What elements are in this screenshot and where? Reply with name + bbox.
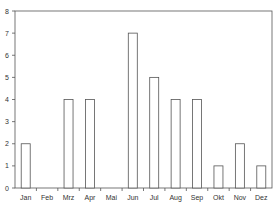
x-tick-label: Jun [127,194,138,201]
x-tick-label: Apr [85,194,97,202]
bar-sep [193,100,202,189]
y-axis: 012345678 [5,8,15,192]
bar-apr [85,100,94,189]
y-tick-label: 0 [5,185,9,192]
bar-okt [214,166,223,188]
x-axis: JanFebMrzAprMaiJunJulAugSepOktNovDez [20,188,268,202]
y-tick-label: 8 [5,8,9,15]
y-tick-label: 1 [5,162,9,169]
plot-frame [15,11,272,188]
y-tick-label: 2 [5,140,9,147]
bar-chart: 012345678 JanFebMrzAprMaiJunJulAugSepOkt… [0,0,280,208]
x-tick-label: Jul [150,194,159,201]
plot-area-border [15,11,272,188]
x-tick-label: Mai [106,194,118,201]
bar-jun [128,33,137,188]
y-tick-label: 7 [5,30,9,37]
y-tick-label: 4 [5,96,9,103]
y-tick-label: 5 [5,74,9,81]
y-tick-label: 6 [5,52,9,59]
bar-nov [235,144,244,188]
x-tick-label: Jan [20,194,31,201]
x-tick-label: Okt [213,194,224,201]
bar-mrz [64,100,73,189]
x-tick-label: Mrz [63,194,75,201]
x-tick-label: Sep [191,194,204,202]
x-tick-label: Aug [169,194,182,202]
bars [21,33,266,188]
x-tick-label: Nov [234,194,247,201]
x-tick-label: Dez [255,194,268,201]
x-tick-label: Feb [41,194,53,201]
bar-jan [21,144,30,188]
bar-aug [171,100,180,189]
bar-dez [257,166,266,188]
bar-jul [150,77,159,188]
y-tick-label: 3 [5,118,9,125]
